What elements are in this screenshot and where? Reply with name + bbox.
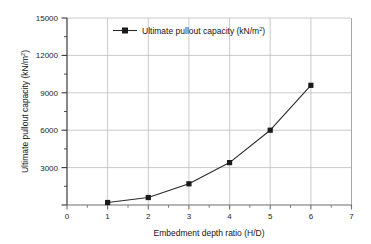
- chart-figure: 15000 12000 9000 6000 3000 0 1 2 3 4 5 6…: [0, 0, 371, 244]
- legend-entry-label-main: Ultimate pullout capacity (kN/m: [142, 26, 259, 36]
- chart-background: [0, 0, 371, 244]
- y-tick-label: 9000: [40, 89, 58, 98]
- y-tick-label: 6000: [40, 126, 58, 135]
- y-axis-title-main: Ultimate pullout capacity (kN/m: [20, 56, 30, 173]
- x-tick-label: 2: [146, 212, 151, 221]
- legend-entry-label: Ultimate pullout capacity (kN/m2): [142, 26, 265, 36]
- y-tick-label: 15000: [36, 14, 59, 23]
- x-tick-label: 7: [349, 212, 354, 221]
- data-point-marker: [308, 83, 313, 88]
- data-point-marker: [227, 160, 232, 165]
- x-tick-label: 0: [65, 212, 70, 221]
- data-point-marker: [268, 128, 273, 133]
- x-axis-title: Embedment depth ratio (H/D): [153, 228, 264, 238]
- legend-marker-square-icon: [122, 28, 128, 34]
- data-point-marker: [146, 195, 151, 200]
- x-tick-label: 4: [227, 212, 232, 221]
- x-tick-label: 5: [268, 212, 273, 221]
- data-point-marker: [105, 200, 110, 205]
- data-point-marker: [186, 181, 191, 186]
- y-tick-label: 12000: [36, 51, 59, 60]
- x-tick-label: 1: [105, 212, 110, 221]
- x-tick-label: 6: [309, 212, 314, 221]
- y-axis-title: Ultimate pullout capacity (kN/m2): [20, 50, 30, 173]
- y-tick-label: 3000: [40, 164, 58, 173]
- y-axis-title-tail: ): [20, 50, 30, 53]
- line-chart: 15000 12000 9000 6000 3000 0 1 2 3 4 5 6…: [0, 0, 371, 244]
- legend-entry-label-tail: ): [262, 26, 265, 36]
- x-tick-label: 3: [187, 212, 192, 221]
